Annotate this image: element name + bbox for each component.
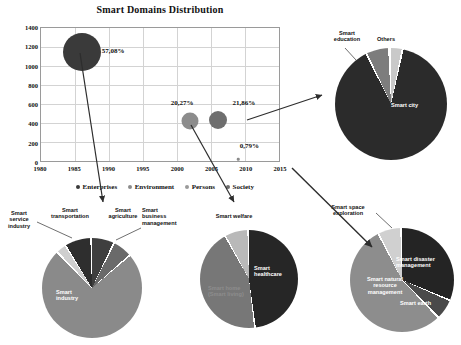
bubble-persons — [209, 111, 227, 129]
legend-label: Persons — [192, 183, 215, 191]
label-smart-business-management: Smart business management — [142, 207, 180, 226]
label-smart-industry: Smart industry — [56, 289, 96, 302]
label-smart-healthcare: Smart healthcare — [254, 265, 296, 278]
y-axis: 1400 1200 1000 800 600 400 200 0 — [0, 27, 38, 162]
label-smart-natural-resource-management: Smart natural resource management — [358, 276, 412, 295]
y-tick: 800 — [2, 81, 38, 88]
bubble-label-persons: 21,86% — [233, 99, 256, 107]
legend-item-environment: Environment — [128, 183, 174, 191]
bubble-label-enterprises: 57,08% — [102, 47, 125, 55]
bubble-label-society: 0,79% — [240, 142, 259, 150]
label-smart-transportation: Smart transportation — [44, 207, 96, 220]
figure-root: Smart Domains Distribution 1400 1200 100… — [0, 0, 461, 345]
label-smart-agriculture: Smart agriculture — [104, 207, 142, 220]
x-axis: 1980 1985 1990 1995 2000 2005 2010 2015 — [40, 165, 280, 177]
label-smart-service-industry: Smart service industry — [2, 210, 36, 229]
label-smart-welfare: Smart welfare — [204, 213, 264, 219]
legend-dot-icon — [226, 185, 230, 189]
bubble-society — [237, 158, 240, 161]
y-tick: 1200 — [2, 43, 38, 50]
legend-label: Enterprises — [83, 183, 118, 191]
label-smart-disaster-management: Smart disaster management — [396, 256, 452, 269]
legend-item-persons: Persons — [185, 183, 215, 191]
label-others: Others — [371, 36, 401, 42]
legend-item-society: Society — [226, 183, 254, 191]
y-tick: 600 — [2, 101, 38, 108]
environment-pie-graphic — [200, 230, 298, 328]
label-smart-city: Smart city — [391, 102, 439, 108]
bubble-chart: Smart Domains Distribution 1400 1200 100… — [0, 0, 320, 200]
x-tick: 2015 — [260, 165, 300, 172]
bubble-enterprises — [63, 33, 101, 71]
label-smart-education: Smart education — [325, 30, 369, 43]
environment-pie-chart: Smart welfare Smart healthcare Smart hom… — [186, 205, 306, 345]
label-smart-space-exploration: Smart space exploration — [320, 204, 376, 217]
y-tick: 1400 — [2, 24, 38, 31]
legend-dot-icon — [128, 185, 132, 189]
enterprises-pie-chart: Smart service industry Smart transportat… — [0, 205, 180, 345]
legend-dot-icon — [76, 185, 80, 189]
bubble-environment — [182, 113, 199, 130]
bubble-label-environment: 20,27% — [171, 99, 194, 107]
persons-pie-chart: Smart education Others Smart city — [325, 30, 455, 160]
y-tick: 400 — [2, 120, 38, 127]
y-tick: 1000 — [2, 62, 38, 69]
legend-label: Environment — [135, 183, 175, 191]
society-pie-chart: Smart space exploration Smart disaster m… — [320, 200, 461, 345]
chart-title: Smart Domains Distribution — [0, 4, 320, 15]
legend-label: Society — [233, 183, 254, 191]
enterprises-pie-graphic — [42, 238, 142, 338]
legend-dot-icon — [185, 185, 189, 189]
plot-area: 57,08% 20,27% 21,86% 0,79% — [40, 27, 280, 162]
legend-item-enterprises: Enterprises — [76, 183, 117, 191]
y-tick: 200 — [2, 139, 38, 146]
label-smart-earth: Smart earth — [400, 300, 446, 306]
label-smart-home: Smart home (Smart living) — [208, 285, 254, 298]
chart-legend: Enterprises Environment Persons Society — [40, 180, 290, 194]
